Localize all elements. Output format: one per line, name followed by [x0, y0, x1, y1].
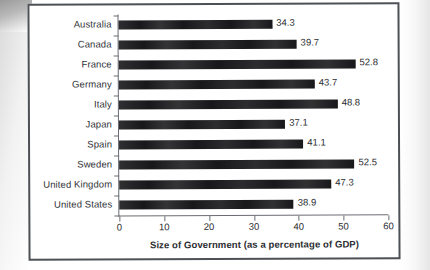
- x-axis-tick-label: 0: [99, 221, 139, 232]
- y-axis-tick: [114, 135, 119, 136]
- y-axis-tick: [114, 175, 119, 176]
- category-label: Canada: [0, 38, 112, 50]
- bar-value-label: 52.5: [358, 156, 377, 167]
- bar-row: Canada39.7: [30, 34, 402, 56]
- bar-row: Japan37.1: [30, 114, 402, 136]
- bar-row: United Kingdom47.3: [30, 174, 402, 196]
- x-axis-title: Size of Government (as a percentage of G…: [118, 238, 390, 250]
- category-label: United States: [0, 198, 112, 210]
- x-axis-tick-label: 10: [144, 221, 184, 232]
- category-label: Japan: [0, 118, 112, 130]
- category-label: Spain: [0, 138, 112, 150]
- bars-container: Australia34.3Canada39.7France52.8Germany…: [29, 4, 401, 6]
- bar: [119, 140, 303, 150]
- y-axis-tick: [114, 35, 119, 36]
- bar: [119, 99, 338, 109]
- bar-value-label: 48.8: [342, 96, 361, 107]
- figure-frame: Australia34.3Canada39.7France52.8Germany…: [27, 2, 400, 261]
- bar: [119, 120, 285, 130]
- bar: [119, 200, 293, 210]
- category-label: Italy: [0, 98, 112, 110]
- bar-row: United States38.9: [30, 194, 402, 216]
- y-axis-tick: [114, 115, 119, 116]
- bar-row: France52.8: [30, 54, 402, 76]
- bar-row: Australia34.3: [29, 14, 401, 36]
- y-axis-tick: [114, 95, 119, 96]
- bar-value-label: 52.8: [359, 56, 378, 67]
- y-axis-ticks: [29, 4, 401, 6]
- bar: [119, 40, 297, 50]
- y-axis-tick: [113, 15, 118, 16]
- bar-value-label: 34.3: [276, 17, 295, 28]
- bar-row: Italy48.8: [30, 94, 402, 116]
- bar-row: Germany43.7: [30, 74, 402, 96]
- y-axis-tick: [114, 195, 119, 196]
- bar: [119, 20, 273, 30]
- bar-value-label: 38.9: [298, 197, 317, 208]
- category-label: Sweden: [0, 158, 112, 170]
- bar-value-label: 39.7: [301, 37, 320, 48]
- y-axis-tick: [114, 75, 119, 76]
- bar: [119, 159, 354, 169]
- x-axis-tick-label: 50: [324, 220, 364, 231]
- bar-value-label: 43.7: [319, 76, 338, 87]
- bar: [119, 179, 331, 189]
- x-axis-tick-label: 20: [189, 221, 229, 232]
- bar-value-label: 37.1: [289, 117, 308, 128]
- bar-chart: Australia34.3Canada39.7France52.8Germany…: [29, 4, 402, 263]
- category-label: Germany: [0, 78, 112, 90]
- category-label: France: [0, 58, 112, 70]
- y-axis-tick: [114, 55, 119, 56]
- x-axis-ticks: 0102030405060: [29, 4, 401, 6]
- category-label: United Kingdom: [0, 178, 112, 190]
- bar: [119, 59, 356, 69]
- bar-value-label: 41.1: [307, 137, 326, 148]
- bar: [119, 80, 315, 90]
- x-axis-tick-label: 60: [368, 220, 408, 231]
- y-axis-tick: [114, 155, 119, 156]
- bar-row: Sweden52.5: [30, 154, 402, 176]
- x-axis-tick-label: 30: [234, 221, 274, 232]
- bar-value-label: 47.3: [335, 176, 354, 187]
- bar-row: Spain41.1: [30, 134, 402, 156]
- category-label: Australia: [0, 18, 112, 30]
- x-axis-tick-label: 40: [279, 221, 319, 232]
